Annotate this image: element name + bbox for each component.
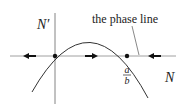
right-arrow-icon — [85, 53, 98, 59]
parabola-curve — [32, 42, 148, 98]
equilibrium-point-zero — [53, 54, 57, 58]
x-axis-label: N — [164, 70, 175, 85]
fraction-numerator: a — [125, 64, 130, 75]
fraction-denominator: b — [125, 75, 130, 86]
equilibrium-label-fraction: a b — [123, 64, 131, 86]
annotation-leader-line — [132, 26, 139, 55]
left-arrow-icon — [23, 53, 36, 59]
y-axis-label: N′ — [36, 17, 50, 32]
equilibrium-point-a-over-b — [125, 54, 129, 58]
phase-line-annotation: the phase line — [92, 12, 158, 26]
left-arrow-icon — [148, 53, 161, 59]
phase-line-diagram: N′ N the phase line a b — [0, 0, 182, 106]
